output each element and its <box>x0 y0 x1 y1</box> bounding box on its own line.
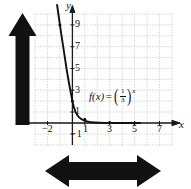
x-axis-label: x <box>179 119 184 130</box>
y-tick-label-7: 7 <box>75 41 80 51</box>
right-paren-icon: ) <box>127 91 131 101</box>
y-axis-label: y <box>66 0 71 11</box>
y-tick-label-5: 5 <box>75 63 80 73</box>
equation-equals: = <box>106 90 112 102</box>
equation-exponent: x <box>132 87 135 95</box>
fraction-denominator: 3 <box>121 97 125 104</box>
equation-lhs: f(x) <box>89 90 104 102</box>
left-paren-icon: ( <box>114 91 118 101</box>
y-tick-label-3: 3 <box>75 85 80 95</box>
x-tick-label-7: 7 <box>157 124 162 134</box>
equation-fraction: 1 3 <box>120 88 126 104</box>
x-tick-label-5: 5 <box>132 124 137 134</box>
data-point <box>58 23 61 26</box>
data-point <box>71 100 74 103</box>
y-tick-label-9: 9 <box>75 19 80 29</box>
fraction-numerator: 1 <box>121 88 125 95</box>
x-tick-label-1: 1 <box>83 124 88 134</box>
x-tick-label-3: 3 <box>107 124 112 134</box>
y-tick-label-neg1: −1 <box>71 129 82 139</box>
y-tick-label-1: 1 <box>75 106 80 116</box>
function-equation-label: f(x) = ( 1 3 ) x <box>89 88 135 104</box>
data-point <box>83 118 86 121</box>
x-tick-label-neg2: −2 <box>42 124 53 134</box>
